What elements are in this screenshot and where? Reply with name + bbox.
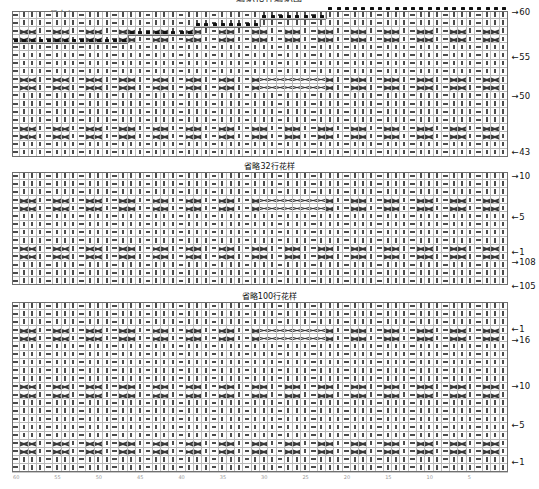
stitch-cell (442, 84, 450, 92)
stitch-cell (310, 35, 318, 43)
stitch-cell (86, 132, 94, 140)
stitch-cell (177, 253, 185, 261)
stitch-cell (268, 204, 276, 212)
stitch-cell (202, 261, 210, 269)
stitch-cell (434, 172, 442, 180)
stitch-cell (392, 407, 400, 415)
stitch-cell (458, 212, 466, 220)
stitch-cell (29, 51, 37, 59)
stitch-cell (103, 172, 111, 180)
stitch-cell (409, 440, 417, 448)
stitch-cell (277, 43, 285, 51)
stitch-cell (169, 318, 177, 326)
stitch-cell (400, 277, 408, 285)
stitch-cell (103, 302, 111, 310)
stitch-cell (252, 351, 260, 359)
stitch-cell (318, 440, 326, 448)
row-number-text: 10 (519, 171, 530, 181)
stitch-cell (144, 141, 152, 149)
stitch-cell (301, 188, 309, 196)
stitch-cell (177, 212, 185, 220)
stitch-cell (235, 415, 243, 423)
stitch-cell (409, 116, 417, 124)
stitch-cell (235, 367, 243, 375)
stitch-cell (376, 342, 384, 350)
stitch-cell (53, 302, 61, 310)
stitch-cell (310, 407, 318, 415)
stitch-cell (359, 448, 367, 456)
stitch-cell (144, 440, 152, 448)
stitch-cell (392, 253, 400, 261)
stitch-cell (95, 68, 103, 76)
stitch-cell (285, 84, 293, 92)
stitch-cell (62, 27, 70, 35)
stitch-cell (343, 318, 351, 326)
stitch-cell (392, 76, 400, 84)
stitch-cell (409, 229, 417, 237)
stitch-cell (417, 440, 425, 448)
stitch-cell (29, 351, 37, 359)
stitch-cell (367, 318, 375, 326)
stitch-cell (277, 342, 285, 350)
stitch-cell (70, 245, 78, 253)
stitch-cell (376, 237, 384, 245)
stitch-cell (20, 310, 28, 318)
stitch-cell (367, 253, 375, 261)
stitch-cell (128, 326, 136, 334)
stitch-cell (277, 108, 285, 116)
stitch-cell (243, 132, 251, 140)
stitch-cell (483, 196, 491, 204)
stitch-cell (119, 342, 127, 350)
stitch-cell (144, 269, 152, 277)
stitch-cell (202, 423, 210, 431)
stitch-cell (29, 342, 37, 350)
stitch-cell (467, 415, 475, 423)
column-ruler-tick: 10 (427, 473, 433, 482)
stitch-cell (86, 245, 94, 253)
stitch-cell (351, 100, 359, 108)
stitch-cell (384, 456, 392, 464)
stitch-cell (227, 383, 235, 391)
stitch-cell (128, 92, 136, 100)
stitch-cell (359, 19, 367, 27)
stitch-cell (12, 367, 20, 375)
stitch-cell (227, 204, 235, 212)
stitch-cell (458, 269, 466, 277)
stitch-cell (425, 351, 433, 359)
stitch-cell (450, 132, 458, 140)
stitch-cell (301, 35, 309, 43)
stitch-cell (260, 196, 268, 204)
stitch-cell (400, 326, 408, 334)
stitch-cell (219, 269, 227, 277)
stitch-cell (103, 68, 111, 76)
stitch-cell (78, 456, 86, 464)
stitch-cell (318, 456, 326, 464)
stitch-cell (500, 212, 508, 220)
stitch-cell (169, 180, 177, 188)
stitch-cell (376, 196, 384, 204)
stitch-cell (136, 391, 144, 399)
stitch-cell (169, 261, 177, 269)
stitch-cell (442, 124, 450, 132)
stitch-cell (111, 383, 119, 391)
stitch-cell (442, 212, 450, 220)
stitch-cell (392, 100, 400, 108)
stitch-cell (400, 196, 408, 204)
stitch-cell (400, 149, 408, 157)
stitch-cell (351, 245, 359, 253)
stitch-cell (351, 180, 359, 188)
stitch-cell (235, 116, 243, 124)
stitch-cell (202, 84, 210, 92)
stitch-cell (186, 375, 194, 383)
stitch-cell (334, 302, 342, 310)
stitch-cell (136, 76, 144, 84)
stitch-cell (227, 237, 235, 245)
stitch-cell (252, 204, 260, 212)
stitch-cell (483, 43, 491, 51)
stitch-cell (450, 423, 458, 431)
stitch-cell (268, 375, 276, 383)
stitch-cell (29, 19, 37, 27)
stitch-cell (301, 132, 309, 140)
stitch-cell (334, 221, 342, 229)
stitch-cell (285, 92, 293, 100)
